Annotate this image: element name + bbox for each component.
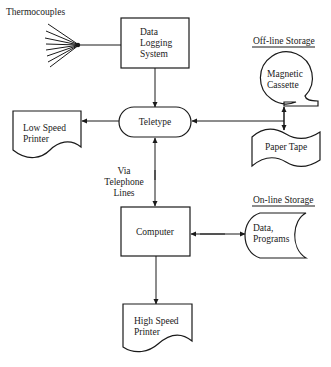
computer-label: Computer [136, 227, 175, 237]
teletype-terminal: Teletype [119, 107, 191, 137]
offline-storage-heading: Off-line Storage [252, 36, 315, 47]
magnetic-cassette-tape-reel: Magnetic Cassette [260, 52, 318, 106]
telephone-line-1: Via [117, 166, 131, 176]
paper-tape-punched-tape: Paper Tape [252, 129, 320, 166]
teletype-label: Teletype [139, 117, 172, 127]
telephone-lines-note: Via Telephone Lines [104, 166, 143, 198]
data-logging-system-box: Data Logging System [121, 18, 189, 68]
thermocouples: Thermocouples [6, 7, 121, 67]
magnetic-cassette-line-1: Magnetic [267, 69, 303, 79]
data-programs-line-2: Programs [253, 234, 290, 244]
data-logging-line-2: Logging [140, 38, 172, 48]
online-storage-drum: Data, Programs [245, 213, 306, 258]
data-logging-line-3: System [140, 49, 169, 59]
system-diagram: Thermocouples Data Logging System Telety… [0, 0, 331, 367]
high-speed-printer-line-2: Printer [134, 327, 161, 337]
low-speed-printer-line-2: Printer [23, 134, 50, 144]
low-speed-printer-document: Low Speed Printer [13, 111, 81, 158]
computer-box: Computer [121, 207, 190, 256]
telephone-line-3: Lines [113, 188, 134, 198]
low-speed-printer-line-1: Low Speed [23, 123, 66, 133]
paper-tape-label: Paper Tape [265, 142, 307, 152]
online-storage-heading: On-line Storage [252, 195, 315, 206]
high-speed-printer-document: High Speed Printer [123, 304, 192, 352]
telephone-line-2: Telephone [104, 177, 143, 187]
online-storage-label: On-line Storage [253, 195, 313, 205]
data-logging-line-1: Data [140, 27, 159, 37]
offline-storage-label: Off-line Storage [253, 36, 315, 46]
magnetic-cassette-line-2: Cassette [267, 80, 299, 90]
data-programs-line-1: Data, [253, 223, 273, 233]
thermocouple-wires-icon [45, 24, 80, 67]
thermocouples-label: Thermocouples [6, 7, 65, 17]
high-speed-printer-line-1: High Speed [134, 316, 179, 326]
